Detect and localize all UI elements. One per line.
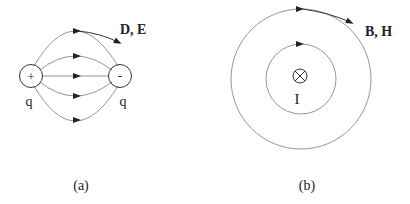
arrow-icon bbox=[296, 41, 304, 47]
positive-symbol: + bbox=[27, 69, 34, 84]
arrow-icon bbox=[73, 53, 81, 59]
diagram-canvas: + - q q D, E (a) I B, H (b) bbox=[0, 0, 410, 204]
field-label-BH: B, H bbox=[365, 24, 392, 39]
field-line-upper bbox=[40, 56, 112, 70]
arrow-icon bbox=[73, 117, 81, 123]
current-into-page-icon bbox=[293, 69, 307, 83]
field-circle-inner bbox=[266, 44, 336, 114]
caption-b: (b) bbox=[299, 178, 316, 194]
field-line-bottom bbox=[34, 86, 118, 121]
negative-charge-label: q bbox=[120, 94, 127, 109]
field-line-lower bbox=[40, 82, 112, 96]
field-label-DE: D, E bbox=[120, 22, 146, 37]
field-circle-outer bbox=[231, 9, 371, 149]
current-label: I bbox=[295, 91, 300, 107]
panel-b-current: I B, H (b) bbox=[231, 6, 392, 194]
arrow-icon bbox=[73, 93, 81, 99]
negative-symbol: - bbox=[118, 68, 122, 83]
field-vector-BH bbox=[303, 9, 350, 22]
positive-charge-label: q bbox=[26, 94, 33, 109]
arrow-icon bbox=[73, 73, 81, 79]
panel-a-dipole: + - q q D, E (a) bbox=[20, 22, 147, 194]
caption-a: (a) bbox=[73, 178, 89, 194]
arrow-icon bbox=[296, 6, 304, 12]
